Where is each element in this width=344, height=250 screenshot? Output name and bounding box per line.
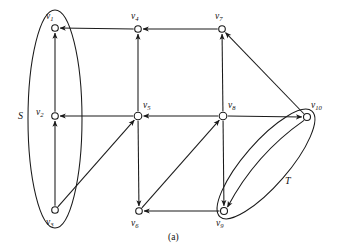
node-v6 bbox=[136, 208, 143, 215]
node-v1 bbox=[52, 25, 59, 32]
node-v7 bbox=[219, 26, 226, 33]
edge-v8-to-v7 bbox=[222, 34, 223, 111]
node-label-v2: v2 bbox=[36, 108, 44, 118]
group-label-T: T bbox=[285, 176, 291, 186]
node-v10 bbox=[304, 114, 311, 121]
node-v8 bbox=[219, 112, 227, 120]
node-label-v4: v4 bbox=[131, 12, 139, 22]
nodes-layer bbox=[52, 25, 311, 215]
node-label-v8: v8 bbox=[228, 101, 236, 111]
node-label-v10: v10 bbox=[311, 101, 322, 111]
figure-container: v1v2v3v4v5v6v7v8v9v10 (a) ST bbox=[0, 0, 344, 250]
edge-v4-to-v1 bbox=[60, 28, 134, 29]
node-label-v9: v9 bbox=[216, 219, 224, 229]
graph-canvas bbox=[0, 0, 344, 250]
node-label-v5: v5 bbox=[143, 101, 151, 111]
edge-v10-to-v7 bbox=[226, 33, 304, 114]
group-label-S: S bbox=[18, 111, 23, 121]
group-ellipses-layer bbox=[28, 10, 329, 231]
edge-v5-to-v6 bbox=[138, 121, 139, 206]
node-v5 bbox=[134, 112, 142, 120]
edge-v3-to-v5 bbox=[58, 120, 134, 207]
edge-v8-to-v9 bbox=[223, 121, 224, 206]
edges-layer bbox=[55, 28, 304, 211]
node-v9 bbox=[221, 208, 228, 215]
node-v4 bbox=[135, 26, 142, 33]
edge-v8-to-v10 bbox=[228, 116, 302, 117]
edge-v6-to-v8 bbox=[142, 120, 219, 208]
node-label-v1: v1 bbox=[46, 12, 54, 22]
node-v2 bbox=[52, 113, 59, 120]
node-label-v6: v6 bbox=[131, 219, 139, 229]
node-label-v3: v3 bbox=[46, 218, 54, 228]
edge-v10-to-v9 bbox=[228, 120, 305, 207]
node-label-v7: v7 bbox=[215, 12, 223, 22]
figure-caption: (a) bbox=[168, 233, 179, 243]
node-v3 bbox=[52, 207, 59, 214]
